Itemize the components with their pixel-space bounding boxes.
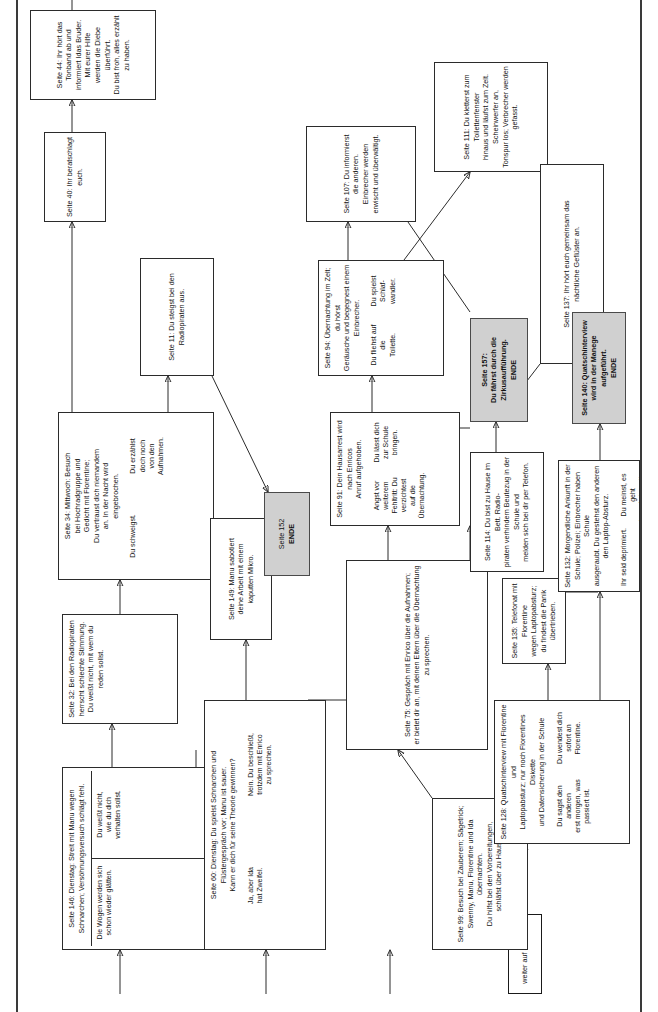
node-seite-107[interactable]: Seite 107: Du informierst die anderen. E… xyxy=(306,126,416,222)
node-seite-132[interactable]: Seite 132: Morgendliche Ankunft in der S… xyxy=(558,460,640,592)
node-seite-114[interactable]: Seite 114: Du bist zu Hause im Bett. Rad… xyxy=(470,452,544,572)
option-0[interactable]: Du fliehst auf die Toilette. xyxy=(366,318,439,372)
node-options: Du schweigst. Du erzählst doch noch von … xyxy=(125,416,209,576)
option-1[interactable]: Du meinst, es geht irgendwie weiter. xyxy=(616,464,640,526)
option-0[interactable]: Ja, aber Ida hat Zweifel. xyxy=(243,825,321,946)
node-title: Seite 111: Du kletterst zum Toilettenfen… xyxy=(462,66,519,168)
node-title: Seite 75: Gespräch mit Enrico über die A… xyxy=(403,564,432,746)
node-seite-111[interactable]: Seite 111: Du kletterst zum Toilettenfen… xyxy=(434,62,548,172)
node-title: Seite 157: Du fährst durch die Zirkusauf… xyxy=(480,337,509,403)
node-seite-44[interactable]: Seite 44: Ihr hört das Tonband ab und in… xyxy=(30,10,156,100)
node-options: Du sagst den anderen erst morgen, was pa… xyxy=(552,704,625,840)
node-seite-91[interactable]: Seite 91: Dein Hausarrest wird nach Enri… xyxy=(330,412,460,526)
node-seite-140-ende[interactable]: Seite 140: Quatschinterview wird in der … xyxy=(572,312,626,424)
flowchart-canvas: weiter auf Seite 34 Seite 146: Dienstag:… xyxy=(0,0,658,1012)
node-seite-11[interactable]: Seite 11: Du steigst bei den Radiopirate… xyxy=(140,258,214,376)
node-title: Seite 146: Dienstag: Streit mit Manu weg… xyxy=(67,771,86,946)
ende-label: ENDE xyxy=(509,360,519,380)
node-title: Seite 91: Dein Hausarrest wird nach Enri… xyxy=(335,416,364,522)
node-seite-135[interactable]: Seite 135: Telefonat mit Florentine wege… xyxy=(502,578,566,664)
node-seite-60[interactable]: Seite 60: Dienstag: Du spielst Schnarche… xyxy=(204,700,326,950)
option-1[interactable]: Nein. Du beschließt, trotzdem mit Enrico… xyxy=(243,704,321,825)
node-seite-128[interactable]: Seite 128: Quatschinterview mit Florenti… xyxy=(494,700,630,844)
node-options: Du fliehst auf die Toilette. Du spielst … xyxy=(366,264,439,372)
node-title: Seite 135: Telefonat mit Florentine wege… xyxy=(510,582,558,660)
option-1[interactable]: Du erzählst doch noch von den Aufnahmen. xyxy=(125,416,209,496)
option-0[interactable]: Angst vor weiterem Fehltritt: Du verzich… xyxy=(369,469,455,522)
option-1[interactable]: Du wendest dich sofort an Florentine. xyxy=(552,704,625,772)
node-title: Seite 32: Bei den Radiopiraten herrscht … xyxy=(67,618,105,720)
node-title: Seite 40: Ihr beratschlagt euch. xyxy=(65,136,84,218)
ende-label: ENDE xyxy=(609,358,619,378)
node-title: Seite 44: Ihr hört das Tonband ab und in… xyxy=(55,14,132,96)
node-options: Ja, aber Ida hat Zweifel. Nein. Du besch… xyxy=(243,704,321,946)
node-seite-34[interactable]: Seite 34: Mittwoch: Besuch bei Hochradgr… xyxy=(58,412,214,580)
node-seite-149[interactable]: Seite 149: Manu sabotiert deine Arbeit m… xyxy=(210,518,272,640)
node-title: Seite 128: Quatschinterview mit Florenti… xyxy=(499,704,547,840)
node-seite-157-zirkus-ende[interactable]: Seite 157: Du fährst durch die Zirkusauf… xyxy=(470,318,528,422)
node-title: Seite 60: Dienstag: Du spielst Schnarche… xyxy=(209,704,238,946)
node-seite-75[interactable]: Seite 75: Gespräch mit Enrico über die A… xyxy=(346,560,488,750)
option-1[interactable]: Du spielst Schlaf- wandler. xyxy=(366,264,439,318)
option-0[interactable]: Du schweigst. xyxy=(125,496,209,576)
node-title: Seite 34: Mittwoch: Besuch bei Hochradgr… xyxy=(63,416,120,576)
node-title: Seite 107: Du informierst die anderen. E… xyxy=(342,130,380,218)
node-title: Seite 132: Morgendliche Ankunft in der S… xyxy=(563,464,611,588)
option-0[interactable]: Du sagst den anderen erst morgen, was pa… xyxy=(552,772,625,840)
node-title: Seite 94: Übernachtung im Zelt; du hörst… xyxy=(323,264,361,372)
node-title: Seite 140: Quatschinterview wird in der … xyxy=(580,316,609,420)
node-seite-152-ende[interactable]: Seite 152 ENDE xyxy=(264,492,310,576)
node-options: Ihr seid deprimiert. Du meinst, es geht … xyxy=(616,464,640,588)
option-1[interactable]: Du lässt dich zur Schule bringen. xyxy=(369,416,455,469)
node-seite-40[interactable]: Seite 40: Ihr beratschlagt euch. xyxy=(44,132,106,222)
node-seite-94[interactable]: Seite 94: Übernachtung im Zelt; du hörst… xyxy=(318,260,444,376)
ende-label: ENDE xyxy=(287,524,297,544)
node-title: Seite 11: Du steigst bei den Radiopirate… xyxy=(167,262,186,372)
option-0[interactable]: Ihr seid deprimiert. xyxy=(616,526,640,588)
node-title: Seite 149: Manu sabotiert deine Arbeit m… xyxy=(227,522,256,636)
node-options: Angst vor weiterem Fehltritt: Du verzich… xyxy=(369,416,455,522)
node-title: Seite 152 xyxy=(277,519,287,549)
node-seite-32[interactable]: Seite 32: Bei den Radiopiraten herrscht … xyxy=(62,614,178,724)
node-title: Seite 114: Du bist zu Hause im Bett. Rad… xyxy=(483,456,531,568)
